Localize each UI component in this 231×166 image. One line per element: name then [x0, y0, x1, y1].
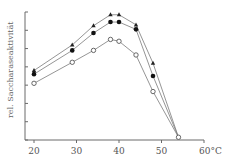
triangle-marker: [134, 22, 138, 26]
open-circle-marker: [134, 53, 138, 57]
x-tick-label: 20: [28, 146, 40, 156]
open-circle-marker: [117, 39, 121, 43]
x-tick-label: 30: [71, 146, 83, 156]
open-circle-marker: [176, 135, 180, 139]
open-circle-marker: [108, 37, 112, 41]
axes: 2030405060°C: [25, 12, 222, 156]
filled-circle-marker: [70, 48, 75, 53]
filled-circle-marker: [91, 31, 96, 36]
y-axis-label: rel. Saccharaseaktivität: [6, 21, 15, 118]
series-group: [32, 12, 181, 139]
temperature-activity-chart: 2030405060°C rel. Saccharaseaktivität: [0, 0, 231, 166]
filled-circle-marker: [108, 20, 113, 25]
filled-circle-marker: [32, 72, 37, 77]
open-circle-marker: [70, 60, 74, 64]
triangle-marker: [91, 23, 95, 27]
x-tick-label: 40: [113, 146, 125, 156]
filled-circle-marker: [117, 20, 122, 25]
x-tick-label: 50: [156, 146, 168, 156]
x-tick-label: 60°C: [199, 146, 222, 156]
triangle-marker: [32, 68, 36, 72]
filled-circle-marker: [134, 27, 139, 32]
open-circle-marker: [32, 81, 36, 85]
triangle-line: [34, 15, 179, 138]
open-circle-marker: [151, 89, 155, 93]
open-circle-marker: [91, 48, 95, 52]
filled-circle-line: [34, 22, 179, 137]
filled-circle-marker: [151, 74, 156, 79]
open-circle-line: [34, 39, 179, 137]
triangle-marker: [151, 61, 155, 65]
